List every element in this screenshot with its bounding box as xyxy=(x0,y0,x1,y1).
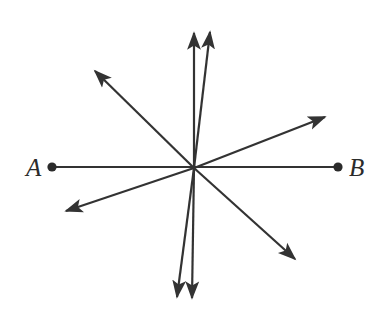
vertex-label-a: A xyxy=(26,155,41,180)
geometry-diagram: A B xyxy=(0,0,380,319)
point-b-dot xyxy=(333,162,342,171)
ray-up-tilted-right xyxy=(194,32,210,168)
ray-lower-right-diagonal xyxy=(194,168,295,259)
ray-diagram-canvas xyxy=(0,0,380,319)
point-a-dot xyxy=(47,162,56,171)
ray-upper-right-diagonal xyxy=(194,117,325,168)
ray-lower-left-diagonal xyxy=(66,168,194,211)
vertex-label-b: B xyxy=(349,155,364,180)
ray-upper-left-diagonal xyxy=(95,71,194,168)
rays-group xyxy=(66,32,325,298)
